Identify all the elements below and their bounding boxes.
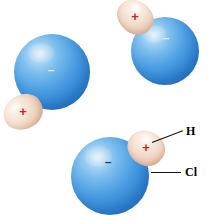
chlorine-partial-negative-charge: – <box>159 32 173 42</box>
hcl-molecule-figure: – + – + – + H Cl <box>0 0 211 220</box>
chlorine-partial-negative-charge: – <box>44 64 58 74</box>
hydrogen-partial-positive-charge: + <box>140 141 152 153</box>
hydrogen-partial-positive-charge: + <box>17 105 29 117</box>
chlorine-partial-negative-charge: – <box>101 156 115 166</box>
chlorine-leader-line <box>151 172 181 173</box>
hydrogen-callout-label: H <box>186 125 196 137</box>
chlorine-callout-label: Cl <box>185 166 197 178</box>
hydrogen-partial-positive-charge: + <box>129 10 141 22</box>
